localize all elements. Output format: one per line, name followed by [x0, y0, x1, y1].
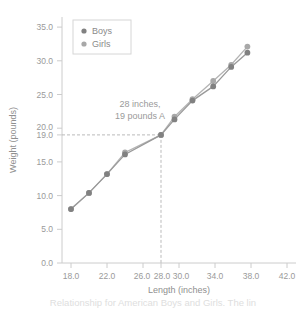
y-axis-title: Weight (pounds) [8, 107, 18, 173]
data-point [158, 132, 164, 138]
x-tick-label: 34.0 [207, 271, 224, 281]
chart-legend[interactable]: Boys Girls [73, 20, 131, 54]
y-tick-label: 15.0 [36, 157, 53, 167]
data-point [122, 152, 128, 158]
data-point [210, 84, 216, 90]
y-tick-label: 20.0 [36, 122, 53, 132]
data-point [68, 206, 74, 212]
y-tick-label: 25.0 [36, 90, 53, 100]
legend-label-boys: Boys [92, 26, 113, 36]
x-tick-label: 26.0 [134, 271, 151, 281]
y-tick-label: 30.0 [36, 56, 53, 66]
data-point [104, 171, 110, 177]
legend-marker-boys-icon [81, 28, 86, 33]
data-point [245, 44, 251, 50]
y-tick-label: 35.0 [36, 22, 53, 32]
annotation-line-1: 28 inches, [119, 99, 160, 109]
y-tick-label: 10.0 [36, 191, 53, 201]
data-point [172, 117, 178, 123]
data-point [245, 50, 251, 56]
x-axis-title: Length (inches) [148, 285, 210, 295]
data-point [228, 64, 234, 70]
annotation-line-2: 19 pounds A [115, 111, 165, 121]
x-tick-label: 38.0 [243, 271, 260, 281]
x-tick-label: 42.0 [279, 271, 296, 281]
legend-marker-girls-icon [81, 41, 86, 46]
x-tick-label: 22.0 [99, 271, 116, 281]
y-tick-label: 0.0 [41, 258, 53, 268]
data-point [190, 98, 196, 104]
data-point [210, 78, 216, 84]
x-tick-label-28: 28.0 [154, 271, 171, 281]
legend-label-girls: Girls [92, 39, 111, 49]
x-tick-label: 30.0 [173, 271, 190, 281]
data-point [86, 190, 92, 196]
weight-length-scatter-chart: 0.0 5.0 10.0 15.0 19.0 20.0 25.0 30.0 35… [0, 0, 307, 309]
chart-figure: 0.0 5.0 10.0 15.0 19.0 20.0 25.0 30.0 35… [0, 0, 307, 309]
figure-caption: Relationship for American Boys and Girls… [50, 297, 256, 308]
x-tick-label: 18.0 [63, 271, 80, 281]
y-tick-label: 5.0 [41, 224, 53, 234]
